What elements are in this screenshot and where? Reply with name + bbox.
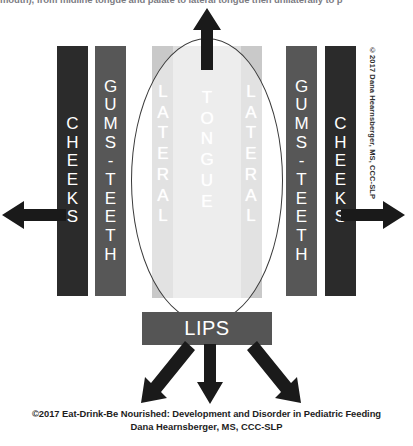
footer-line-1: ©2017 Eat-Drink-Be Nourished: Developmen… <box>0 408 413 419</box>
footer-attribution: ©2017 Eat-Drink-Be Nourished: Developmen… <box>0 408 413 432</box>
arrow-down-icon <box>196 344 224 404</box>
label-bar-cheeks-left: CHEEKS <box>57 46 88 296</box>
oral-anatomy-diagram: CHEEKS GUMS-TEETH GUMS-TEETH CHEEKS LATE… <box>0 14 413 404</box>
label-bar-gums-teeth-left: GUMS-TEETH <box>95 46 126 296</box>
oval-label-lateral-left: LATERAL <box>152 82 174 227</box>
gums-teeth-left-text: GUMS-TEETH <box>103 78 117 265</box>
arrow-right-icon <box>341 200 405 230</box>
arrow-down-right-icon <box>245 341 301 403</box>
arrow-down-left-icon <box>141 341 197 403</box>
lips-text: LIPS <box>184 317 229 340</box>
oval-label-tongue: TONGUE <box>196 88 218 212</box>
arrow-up-icon <box>192 8 222 70</box>
footer-line-2: Dana Hearnsberger, MS, CCC-SLP <box>0 421 413 432</box>
label-bar-cheeks-right: CHEEKS <box>325 46 356 296</box>
oval-label-lateral-right: LATERAL <box>240 82 262 227</box>
label-bar-gums-teeth-right: GUMS-TEETH <box>286 46 317 296</box>
cropped-header-text: mouth), from midline tongue and palate t… <box>0 0 413 6</box>
cheeks-left-text: CHEEKS <box>66 115 78 227</box>
side-copyright-vertical: ©2017 Dana Hearnsberger, MS, CCC-SLP <box>365 46 379 176</box>
gums-teeth-right-text: GUMS-TEETH <box>294 78 308 265</box>
arrow-left-icon <box>2 200 66 230</box>
